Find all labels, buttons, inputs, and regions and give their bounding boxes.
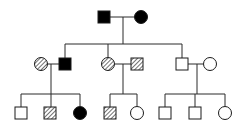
female-unaffected-icon <box>131 107 144 120</box>
male-affected-icon <box>59 58 71 70</box>
male-unaffected-icon <box>189 107 201 119</box>
female-affected-icon <box>135 11 148 24</box>
male-carrier-icon <box>44 107 56 119</box>
male-unaffected-icon <box>176 58 188 70</box>
female-carrier-icon <box>35 58 48 71</box>
male-affected-icon <box>98 11 110 23</box>
male-carrier-icon <box>131 58 143 70</box>
male-unaffected-icon <box>15 107 27 119</box>
female-affected-icon <box>74 107 87 120</box>
connector-lines <box>21 17 225 107</box>
pedigree-chart <box>0 0 245 127</box>
male-unaffected-icon <box>159 107 171 119</box>
female-unaffected-icon <box>219 107 232 120</box>
female-carrier-icon <box>102 58 115 71</box>
female-unaffected-icon <box>204 58 217 71</box>
male-carrier-icon <box>104 107 116 119</box>
